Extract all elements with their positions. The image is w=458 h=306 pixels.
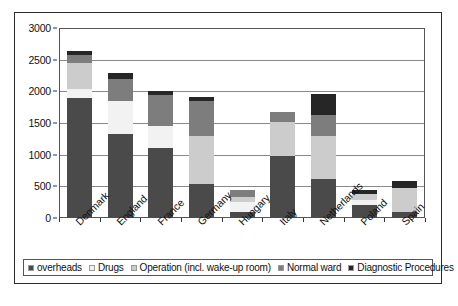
- y-tick-mark: [53, 154, 57, 155]
- legend-swatch-icon: [89, 265, 95, 271]
- gridline: [60, 186, 424, 187]
- legend-label: Drugs: [98, 262, 124, 273]
- legend-swatch-icon: [348, 265, 354, 271]
- legend-label: Operation (incl. wake-up room): [140, 262, 271, 273]
- y-tick-mark: [53, 28, 57, 29]
- y-tick-mark: [53, 59, 57, 60]
- gridline: [60, 91, 424, 92]
- chart-figure: 050010001500200025003000 DenmarkEnglandF…: [14, 12, 442, 284]
- y-tick-mark: [53, 91, 57, 92]
- plot-area: [59, 28, 425, 218]
- y-tick-label: 2000: [28, 85, 51, 97]
- legend-swatch-icon: [131, 265, 137, 271]
- gridline: [60, 60, 424, 61]
- legend-label: Normal ward: [287, 262, 341, 273]
- legend-item: Normal ward: [278, 262, 341, 273]
- gridline: [60, 123, 424, 124]
- y-axis: 050010001500200025003000: [15, 28, 57, 218]
- y-tick-label: 1000: [28, 149, 51, 161]
- y-tick-mark: [53, 123, 57, 124]
- y-tick-mark: [53, 186, 57, 187]
- y-tick-mark: [53, 218, 57, 219]
- legend-label: overheads: [37, 262, 82, 273]
- y-tick-label: 3000: [28, 22, 51, 34]
- legend-item: overheads: [28, 262, 82, 273]
- y-tick-label: 0: [45, 212, 51, 224]
- legend-swatch-icon: [28, 265, 34, 271]
- y-tick-label: 2500: [28, 54, 51, 66]
- legend-item: Drugs: [89, 262, 124, 273]
- gridline: [60, 155, 424, 156]
- y-tick-label: 1500: [28, 117, 51, 129]
- chart-legend: overheadsDrugsOperation (incl. wake-up r…: [23, 259, 433, 276]
- y-tick-label: 500: [34, 180, 51, 192]
- legend-item: Diagnostic Procedures: [348, 262, 453, 273]
- legend-item: Operation (incl. wake-up room): [131, 262, 271, 273]
- legend-label: Diagnostic Procedures: [357, 262, 453, 273]
- legend-swatch-icon: [278, 265, 284, 271]
